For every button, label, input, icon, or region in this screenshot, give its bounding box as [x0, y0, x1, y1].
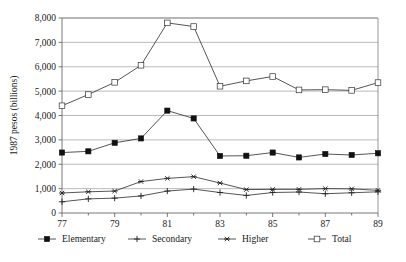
- data-point-elementary-marker: [59, 150, 64, 155]
- series-line-elementary: [62, 111, 378, 158]
- data-point-elementary-marker: [112, 140, 117, 145]
- data-point-elementary-marker: [217, 153, 222, 158]
- data-point-total-marker: [244, 78, 250, 84]
- y-tick-label: 1,000: [35, 184, 57, 194]
- data-point-total-marker: [165, 20, 171, 26]
- legend-total-marker: [314, 236, 320, 242]
- data-point-total-marker: [217, 83, 223, 89]
- data-point-elementary-marker: [244, 153, 249, 158]
- x-tick-label: 87: [321, 219, 331, 229]
- y-tick-label: 4,000: [35, 111, 57, 121]
- x-tick-label: 77: [57, 219, 67, 229]
- y-tick-label: 8,000: [35, 13, 57, 23]
- data-point-total-marker: [138, 62, 144, 68]
- data-point-elementary-marker: [296, 155, 301, 160]
- legend-label: Secondary: [152, 234, 192, 244]
- y-tick-label: 5,000: [35, 87, 57, 97]
- data-point-total-marker: [112, 80, 118, 86]
- data-point-total-marker: [296, 87, 302, 93]
- x-tick-label: 81: [163, 219, 173, 229]
- y-tick-label: 3,000: [35, 135, 57, 145]
- x-tick-label: 79: [110, 219, 120, 229]
- data-point-total-marker: [59, 103, 65, 109]
- legend-label: Higher: [242, 234, 269, 244]
- legend-item-higher[interactable]: Higher: [218, 234, 269, 244]
- data-point-total-marker: [270, 74, 276, 80]
- legend-item-secondary[interactable]: Secondary: [128, 234, 192, 244]
- y-tick-label: 0: [51, 208, 56, 218]
- x-tick-label: 89: [373, 219, 383, 229]
- y-tick-label: 6,000: [35, 62, 57, 72]
- data-point-elementary-marker: [323, 151, 328, 156]
- data-point-total-marker: [349, 88, 355, 94]
- y-tick-label: 2,000: [35, 160, 57, 170]
- legend-item-elementary[interactable]: Elementary: [38, 234, 106, 244]
- data-point-total-marker: [323, 87, 329, 93]
- x-tick-label: 85: [268, 219, 278, 229]
- data-point-elementary-marker: [375, 151, 380, 156]
- series-total: [59, 20, 381, 108]
- legend-label: Total: [332, 234, 352, 244]
- y-tick-label: 7,000: [35, 38, 57, 48]
- data-point-elementary-marker: [165, 108, 170, 113]
- data-point-elementary-marker: [349, 152, 354, 157]
- legend-elementary-marker: [44, 236, 49, 241]
- data-point-total-marker: [191, 24, 197, 30]
- figure-container: 01,0002,0003,0004,0005,0006,0007,0008,00…: [0, 0, 406, 262]
- data-point-elementary-marker: [191, 116, 196, 121]
- legend-label: Elementary: [62, 234, 106, 244]
- data-point-elementary-marker: [86, 149, 91, 154]
- data-point-elementary-marker: [270, 150, 275, 155]
- legend-item-total[interactable]: Total: [308, 234, 352, 244]
- y-axis-title: 1987 pesos (billions): [9, 76, 20, 156]
- data-point-elementary-marker: [138, 136, 143, 141]
- series-elementary: [59, 108, 380, 160]
- data-point-total-marker: [375, 80, 381, 86]
- data-point-total-marker: [86, 92, 92, 98]
- x-tick-label: 83: [215, 219, 225, 229]
- series-line-total: [62, 23, 378, 106]
- line-chart: 01,0002,0003,0004,0005,0006,0007,0008,00…: [0, 0, 406, 262]
